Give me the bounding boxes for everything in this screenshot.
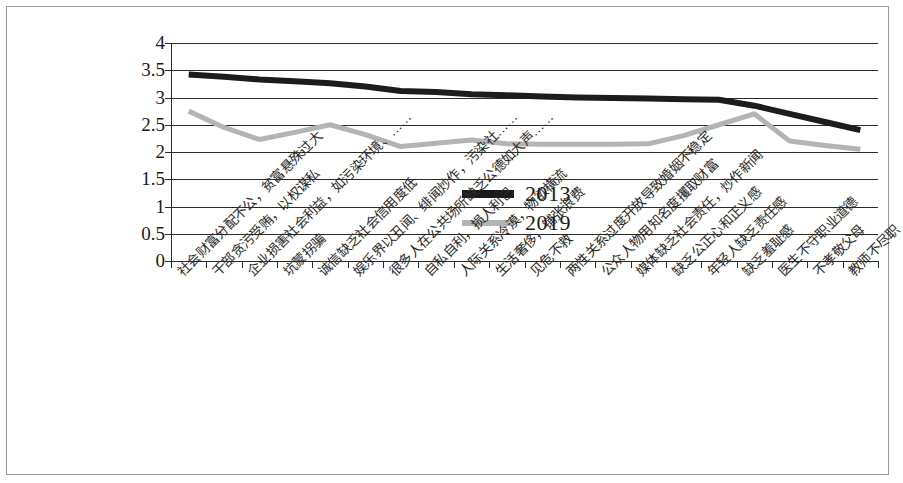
y-axis-tick-label: 1 <box>119 197 165 216</box>
series-line-2013 <box>189 75 861 131</box>
chart-frame: 43.532.521.510.50 20132019 社会财富分配不公，贫富悬殊… <box>6 6 889 475</box>
y-axis-tick-label: 2 <box>119 142 165 161</box>
y-axis-tick-label: 0.5 <box>119 224 165 243</box>
y-axis-tick-labels: 43.532.521.510.50 <box>107 43 165 262</box>
y-axis-tick-label: 3.5 <box>119 60 165 79</box>
y-axis-tick-label: 1.5 <box>119 169 165 188</box>
y-axis-tick-label: 2.5 <box>119 115 165 134</box>
y-axis-tick-label: 3 <box>119 88 165 107</box>
y-axis-tick-label: 4 <box>119 33 165 52</box>
category-axis-labels: 社会财富分配不公，贫富悬殊过大干部贪污受贿，以权谋私企业损害社会利益，如污染环境… <box>7 265 890 470</box>
